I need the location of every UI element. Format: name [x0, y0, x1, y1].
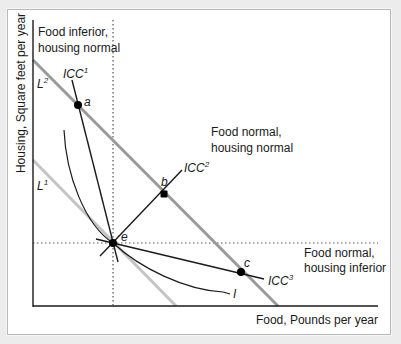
label-L2: L2 [37, 76, 49, 91]
label-icc2-base: ICC [184, 161, 205, 175]
point-b [161, 191, 168, 198]
label-b: b [161, 175, 168, 189]
label-indifference-curve: I [233, 287, 237, 301]
region-food-inferior-housing-normal: Food inferior, housing normal [38, 25, 120, 55]
label-icc2-sup: 2 [204, 160, 210, 169]
point-a [74, 101, 82, 109]
label-icc1-base: ICC [63, 67, 84, 81]
region-bottom-right-line2: housing inferior [304, 261, 386, 275]
label-icc1-sup: 1 [84, 66, 88, 75]
income-consumption-diagram: a b c e L2 L1 ICC1 ICC2 ICC3 I Food infe… [0, 0, 401, 344]
label-a: a [84, 95, 91, 109]
region-food-normal-housing-inferior: Food normal, housing inferior [304, 246, 386, 275]
region-top-left-line2: housing normal [38, 41, 120, 55]
label-icc2: ICC2 [184, 160, 210, 175]
point-e [109, 239, 117, 247]
label-L2-sup: 2 [43, 76, 49, 85]
label-e: e [121, 230, 128, 244]
label-icc3: ICC3 [268, 273, 294, 288]
x-axis-label: Food, Pounds per year [256, 313, 378, 327]
region-bottom-right-line1: Food normal, [304, 246, 375, 260]
region-top-right-line2: housing normal [211, 141, 293, 155]
label-L1-base: L [37, 179, 44, 193]
label-c: c [244, 256, 250, 270]
label-icc1: ICC1 [63, 66, 88, 81]
label-L1-sup: 1 [44, 178, 48, 187]
y-axis-label: Housing, Square feet per year [14, 13, 28, 173]
label-icc3-sup: 3 [289, 273, 294, 282]
label-L2-base: L [37, 77, 44, 91]
label-icc3-base: ICC [268, 274, 289, 288]
indifference-curve-I-leader [223, 292, 230, 294]
label-L1: L1 [37, 178, 48, 193]
region-food-normal-housing-normal: Food normal, housing normal [211, 125, 293, 155]
region-top-right-line1: Food normal, [211, 125, 282, 139]
region-top-left-line1: Food inferior, [38, 25, 108, 39]
